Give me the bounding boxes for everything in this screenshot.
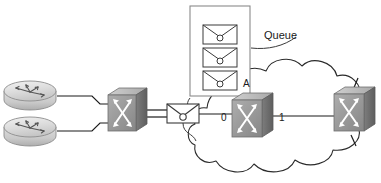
network-diagram (0, 0, 381, 183)
queue-packet-1 (203, 25, 237, 44)
port-0-label: 0 (221, 113, 227, 123)
queue-label: Queue (264, 30, 297, 41)
packet-inflight (167, 104, 199, 123)
router-bottom (4, 117, 56, 146)
queue-box (190, 6, 250, 96)
node-a-label: A (243, 79, 250, 89)
leader-packet-to-switch-a (183, 123, 196, 141)
port-1-label: 1 (279, 113, 285, 123)
diagram-canvas: Queue A 0 1 (0, 0, 381, 183)
switch-a (232, 93, 273, 137)
router-top (4, 81, 56, 110)
switch-remote (334, 87, 375, 131)
queue-packet-3 (203, 71, 237, 90)
link-switch-edge-to-packet (146, 110, 168, 117)
switch-edge (108, 88, 147, 131)
queue-packet-2 (203, 48, 237, 67)
